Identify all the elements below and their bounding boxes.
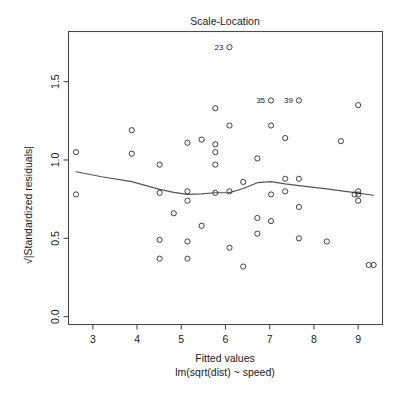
plot-frame xyxy=(69,32,383,325)
y-axis: 0.00.51.01.5 xyxy=(49,74,68,324)
x-axis-title-line1: Fitted values xyxy=(195,352,255,364)
data-point xyxy=(213,162,218,167)
data-point xyxy=(157,162,162,167)
point-label-39: 39 xyxy=(284,96,293,105)
data-point xyxy=(73,150,78,155)
data-point xyxy=(171,211,176,216)
data-point xyxy=(129,151,134,156)
data-point xyxy=(255,231,260,236)
x-tick-label: 6 xyxy=(223,333,229,345)
x-tick-label: 9 xyxy=(355,333,361,345)
plot-canvas: Scale-Location √|Standardized residuals|… xyxy=(0,0,404,395)
y-tick-label: 0.0 xyxy=(49,309,61,324)
data-point xyxy=(199,137,204,142)
y-tick-label: 1.0 xyxy=(49,153,61,168)
x-tick-label: 7 xyxy=(267,333,273,345)
data-point xyxy=(296,204,301,209)
y-tick-label: 1.5 xyxy=(49,74,61,89)
data-point xyxy=(283,135,288,140)
page-title: Scale-Location xyxy=(190,15,260,27)
data-point xyxy=(185,189,190,194)
data-point xyxy=(338,139,343,144)
data-point xyxy=(185,140,190,145)
data-point xyxy=(255,156,260,161)
data-point xyxy=(213,150,218,155)
data-point xyxy=(129,128,134,133)
data-point xyxy=(227,123,232,128)
data-point xyxy=(213,142,218,147)
data-point xyxy=(296,98,301,103)
point-labels: 233539 xyxy=(215,43,294,105)
data-point xyxy=(241,264,246,269)
data-point xyxy=(157,256,162,261)
point-label-23: 23 xyxy=(215,43,224,52)
data-point xyxy=(283,176,288,181)
data-point xyxy=(227,245,232,250)
data-point xyxy=(356,198,361,203)
data-point xyxy=(185,256,190,261)
x-tick-label: 4 xyxy=(134,333,140,345)
x-tick-label: 5 xyxy=(178,333,184,345)
data-point xyxy=(157,190,162,195)
data-point xyxy=(255,215,260,220)
x-tick-label: 3 xyxy=(90,333,96,345)
scale-location-plot: Scale-Location √|Standardized residuals|… xyxy=(0,0,404,395)
data-point xyxy=(296,176,301,181)
x-axis: 3456789 xyxy=(90,325,361,345)
data-point xyxy=(283,189,288,194)
x-axis-title-line2: lm(sqrt(dist) ~ speed) xyxy=(175,366,274,378)
lowess-smoother-line xyxy=(76,172,374,196)
data-point xyxy=(241,179,246,184)
data-point xyxy=(268,98,273,103)
data-point xyxy=(268,218,273,223)
data-point xyxy=(185,239,190,244)
data-point xyxy=(199,223,204,228)
data-point xyxy=(356,103,361,108)
x-tick-label: 8 xyxy=(311,333,317,345)
data-point xyxy=(185,198,190,203)
data-point xyxy=(268,192,273,197)
data-point xyxy=(268,123,273,128)
data-point xyxy=(73,192,78,197)
y-tick-label: 0.5 xyxy=(49,231,61,246)
data-point xyxy=(296,236,301,241)
data-point xyxy=(227,45,232,50)
data-point xyxy=(157,237,162,242)
data-points xyxy=(73,45,376,270)
point-label-35: 35 xyxy=(256,96,265,105)
data-point xyxy=(213,106,218,111)
y-axis-title: √|Standardized residuals| xyxy=(22,146,34,264)
data-point xyxy=(324,239,329,244)
